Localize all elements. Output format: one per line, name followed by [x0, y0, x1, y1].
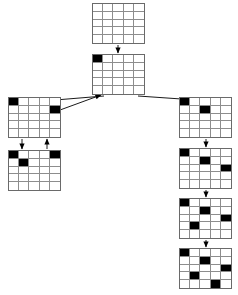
cell-r2-c4	[221, 165, 231, 173]
cell-r3-c3	[124, 27, 134, 35]
cell-r3-c0	[9, 174, 19, 182]
cell-r1-c0	[180, 207, 190, 215]
cell-r4-c1	[19, 129, 29, 137]
cell-r3-c2	[200, 272, 210, 280]
cell-r0-c2	[200, 199, 210, 207]
cell-r4-c0	[180, 230, 190, 238]
cell-r1-c0	[180, 157, 190, 165]
cell-r4-c3	[124, 86, 134, 94]
cell-r1-c1	[190, 106, 200, 114]
cell-r4-c1	[103, 35, 113, 43]
cell-r0-c4	[221, 249, 231, 257]
cell-r0-c4	[221, 199, 231, 207]
root-empty-board[interactable]	[92, 3, 145, 44]
cell-r0-c0	[9, 151, 19, 159]
cell-r4-c4	[221, 129, 231, 137]
cell-r0-c1	[190, 199, 200, 207]
cell-r1-c1	[103, 63, 113, 71]
cell-r3-c1	[190, 272, 200, 280]
cell-r1-c2	[113, 63, 123, 71]
cell-r2-c1	[190, 114, 200, 122]
board-level1[interactable]	[92, 54, 145, 95]
cell-r3-c1	[190, 172, 200, 180]
cell-r0-c4	[134, 55, 144, 63]
cell-r1-c2	[200, 106, 210, 114]
cell-r0-c1	[19, 98, 29, 106]
cell-r2-c2	[200, 265, 210, 273]
cell-r1-c2	[113, 12, 123, 20]
cell-r2-c0	[180, 165, 190, 173]
cell-r0-c0	[180, 249, 190, 257]
cell-r2-c1	[190, 165, 200, 173]
cell-r4-c3	[211, 180, 221, 188]
cell-r3-c4	[134, 27, 144, 35]
cell-r1-c3	[124, 12, 134, 20]
cell-r2-c4	[221, 215, 231, 223]
cell-r3-c1	[190, 121, 200, 129]
cell-r4-c0	[9, 129, 19, 137]
cell-r3-c3	[211, 121, 221, 129]
cell-r1-c2	[29, 106, 39, 114]
cell-r3-c0	[180, 172, 190, 180]
cell-r0-c0	[180, 199, 190, 207]
cell-r2-c1	[19, 167, 29, 175]
cell-r4-c3	[211, 230, 221, 238]
cell-r3-c3	[40, 174, 50, 182]
cell-r1-c2	[200, 207, 210, 215]
cell-r2-c2	[200, 114, 210, 122]
cell-r1-c1	[190, 157, 200, 165]
cell-r1-c0	[180, 257, 190, 265]
board-right-branch-level2[interactable]	[179, 97, 232, 138]
cell-r4-c3	[40, 129, 50, 137]
cell-r4-c2	[200, 280, 210, 288]
cell-r0-c0	[9, 98, 19, 106]
cell-r0-c4	[50, 98, 60, 106]
cell-r0-c4	[50, 151, 60, 159]
cell-r3-c1	[19, 121, 29, 129]
board-left-branch-level2[interactable]	[8, 97, 61, 138]
cell-r3-c3	[211, 172, 221, 180]
cell-r2-c2	[113, 20, 123, 28]
cell-r1-c1	[19, 159, 29, 167]
cell-r4-c1	[19, 182, 29, 190]
cell-r3-c1	[103, 78, 113, 86]
cell-r1-c3	[211, 207, 221, 215]
cell-r3-c2	[200, 172, 210, 180]
cell-r1-c3	[211, 257, 221, 265]
board-right-branch-level3[interactable]	[179, 148, 232, 189]
cell-r2-c0	[180, 114, 190, 122]
cell-r4-c2	[200, 129, 210, 137]
cell-r2-c0	[180, 265, 190, 273]
cell-r0-c1	[19, 151, 29, 159]
board-left-branch-level3[interactable]	[8, 150, 61, 191]
cell-r4-c0	[93, 86, 103, 94]
cell-r2-c1	[103, 20, 113, 28]
cell-r0-c4	[134, 4, 144, 12]
cell-r3-c2	[113, 78, 123, 86]
cell-r4-c0	[93, 35, 103, 43]
cell-r1-c4	[50, 106, 60, 114]
cell-r2-c1	[19, 114, 29, 122]
cell-r4-c0	[180, 129, 190, 137]
cell-r3-c1	[103, 27, 113, 35]
cell-r2-c1	[190, 215, 200, 223]
cell-r2-c2	[200, 165, 210, 173]
cell-r2-c2	[29, 114, 39, 122]
cell-r4-c4	[221, 230, 231, 238]
cell-r2-c3	[40, 167, 50, 175]
cell-r0-c1	[103, 4, 113, 12]
cell-r0-c4	[221, 149, 231, 157]
cell-r1-c0	[180, 106, 190, 114]
board-right-branch-level5-solution[interactable]	[179, 248, 232, 289]
cell-r4-c3	[124, 35, 134, 43]
cell-r4-c0	[180, 280, 190, 288]
cell-r1-c2	[29, 159, 39, 167]
cell-r0-c0	[180, 149, 190, 157]
cell-r2-c4	[134, 71, 144, 79]
board-right-branch-level4[interactable]	[179, 198, 232, 239]
cell-r2-c3	[124, 20, 134, 28]
cell-r0-c2	[200, 98, 210, 106]
cell-r2-c2	[113, 71, 123, 79]
cell-r2-c3	[211, 265, 221, 273]
cell-r4-c2	[200, 180, 210, 188]
